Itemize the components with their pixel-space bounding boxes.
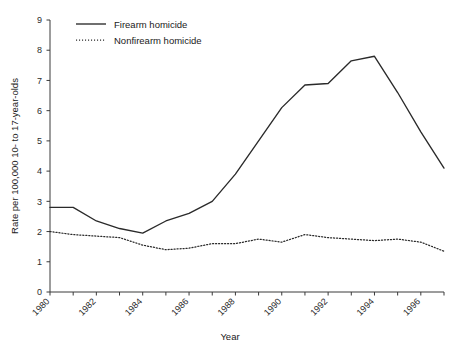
y-tick-label: 1 [37, 257, 42, 267]
y-tick-label: 7 [37, 76, 42, 86]
y-tick-label: 5 [37, 136, 42, 146]
y-tick-label: 9 [37, 15, 42, 25]
y-tick-label: 2 [37, 227, 42, 237]
y-tick-label: 0 [37, 287, 42, 297]
chart-figure: 0123456789 Rate per 100,000 10- to 17-ye… [0, 0, 454, 352]
legend-label-firearm: Firearm homicide [114, 19, 187, 30]
y-tick-label: 6 [37, 106, 42, 116]
y-tick-label: 3 [37, 197, 42, 207]
y-tick-label: 4 [37, 166, 42, 176]
y-tick-label: 8 [37, 45, 42, 55]
line-chart: 0123456789 Rate per 100,000 10- to 17-ye… [0, 0, 454, 352]
x-axis-title: Year [220, 331, 239, 342]
legend-label-nonfirearm: Nonfirearm homicide [114, 35, 202, 46]
y-axis-title: Rate per 100,000 10- to 17-year-olds [9, 78, 20, 234]
